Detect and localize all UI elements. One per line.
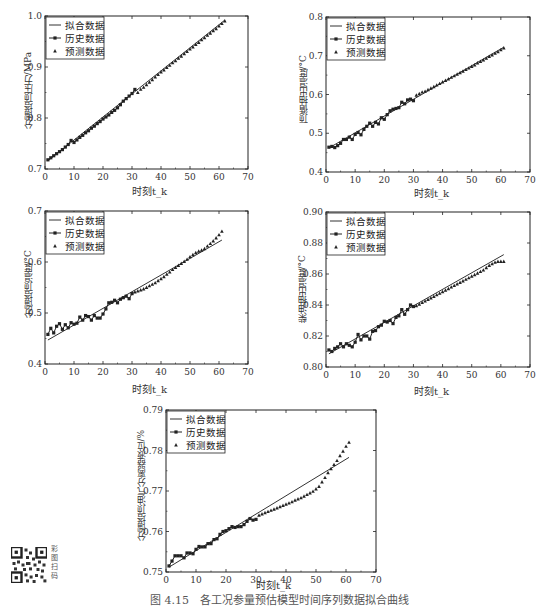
prediction-marker [338, 454, 342, 457]
prediction-marker [341, 449, 345, 452]
prediction-marker [275, 506, 279, 509]
x-tick-label: 70 [370, 575, 382, 585]
prediction-marker [284, 502, 288, 505]
prediction-marker [287, 501, 291, 504]
prediction-marker [266, 510, 270, 513]
prediction-marker [314, 487, 318, 490]
prediction-marker [263, 511, 267, 514]
prediction-marker [311, 489, 315, 492]
legend-label: 预测数据 [186, 440, 226, 451]
plot-svg: 0102030405060700.750.760.770.780.79拟合数据历… [0, 0, 547, 606]
prediction-marker [269, 508, 273, 511]
x-tick-label: 0 [163, 575, 169, 585]
x-tick-label: 50 [310, 575, 322, 585]
prediction-marker [344, 444, 348, 447]
y-tick-label: 0.75 [143, 567, 163, 577]
y-axis-label: 分馏塔顶油气分离器液位/% [134, 430, 147, 541]
prediction-marker [317, 485, 321, 488]
figure-caption: 图 4.15 各工况参量预估模型时间序列数据拟合曲线 [150, 591, 409, 606]
legend-label: 历史数据 [186, 427, 226, 438]
prediction-marker [260, 512, 264, 515]
prediction-marker [335, 459, 339, 462]
prediction-marker [278, 505, 282, 508]
y-tick-label: 0.79 [143, 405, 163, 415]
prediction-marker [296, 497, 300, 500]
prediction-marker [281, 504, 285, 507]
prediction-marker [293, 498, 297, 501]
chart-top-separator-level: 0102030405060700.750.760.770.780.79拟合数据历… [0, 0, 547, 606]
x-tick-label: 20 [220, 575, 232, 585]
legend-label: 拟合数据 [186, 414, 226, 425]
prediction-marker [332, 463, 336, 466]
prediction-marker [323, 476, 327, 479]
x-axis-label: 时刻t_k [256, 577, 291, 592]
qr-label: 彩图扫码 [51, 545, 61, 581]
x-tick-label: 60 [340, 575, 352, 585]
prediction-marker [347, 440, 351, 443]
prediction-marker [320, 480, 324, 483]
prediction-marker [257, 513, 261, 516]
x-tick-label: 10 [190, 575, 202, 585]
prediction-marker [272, 507, 276, 510]
qr-code-icon [11, 547, 47, 583]
